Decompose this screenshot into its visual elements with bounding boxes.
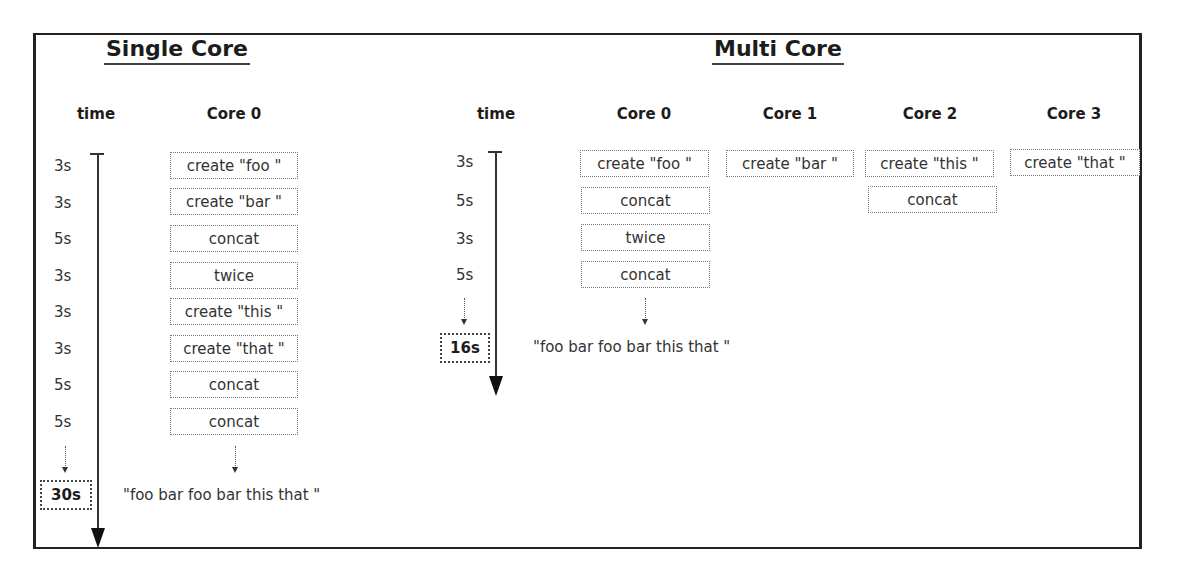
multi-total-dotted-arrow	[464, 298, 465, 320]
multi-core0-task-box: create "foo "	[580, 150, 709, 177]
single-task-box: create "bar "	[170, 188, 298, 215]
multi-time-0: 3s	[456, 153, 473, 171]
single-time-arrowhead-icon	[91, 528, 105, 548]
multi-core-title: Multi Core	[712, 36, 844, 65]
single-time-6: 5s	[54, 376, 71, 394]
single-task-box: twice	[170, 262, 298, 289]
single-time-3: 3s	[54, 267, 71, 285]
multi-core3-header: Core 3	[1047, 105, 1102, 123]
multi-core0-task-box: concat	[581, 261, 710, 288]
single-time-5: 3s	[54, 340, 71, 358]
multi-core0-task-box: concat	[581, 187, 710, 214]
single-total-time: 30s	[40, 480, 92, 510]
multi-total-arrowhead-icon	[461, 319, 467, 325]
multi-core2-header: Core 2	[903, 105, 958, 123]
multi-time-2: 3s	[456, 230, 473, 248]
multi-time-axis	[495, 151, 497, 381]
single-time-4: 3s	[54, 303, 71, 321]
single-task-box: concat	[170, 408, 298, 435]
single-time-1: 3s	[54, 194, 71, 212]
single-task-box: create "this "	[170, 298, 298, 325]
multi-result-dotted-arrow	[645, 298, 646, 320]
single-total-arrowhead-icon	[62, 467, 68, 473]
single-task-box: create "that "	[170, 335, 298, 362]
single-task-box: concat	[170, 371, 298, 398]
diagram-frame	[33, 33, 1142, 549]
multi-core2-task-box: concat	[868, 186, 997, 213]
single-time-7: 5s	[54, 413, 71, 431]
multi-core1-task-box: create "bar "	[726, 150, 854, 177]
multi-total-time: 16s	[440, 333, 490, 363]
single-total-dotted-arrow	[65, 446, 66, 468]
single-time-header: time	[77, 105, 115, 123]
multi-core2-task-box: create "this "	[865, 150, 994, 177]
single-result-dotted-arrow	[235, 446, 236, 468]
single-result-text: "foo bar foo bar this that "	[123, 486, 320, 504]
single-core0-header: Core 0	[207, 105, 262, 123]
multi-time-1: 5s	[456, 192, 473, 210]
single-time-axis	[97, 153, 99, 531]
multi-core0-header: Core 0	[617, 105, 672, 123]
single-task-box: create "foo "	[170, 152, 298, 179]
multi-result-text: "foo bar foo bar this that "	[533, 338, 730, 356]
single-task-box: concat	[170, 225, 298, 252]
multi-core3-task-box: create "that "	[1010, 149, 1140, 176]
multi-time-arrowhead-icon	[489, 376, 503, 396]
multi-core0-task-box: twice	[581, 224, 710, 251]
single-time-0: 3s	[54, 157, 71, 175]
single-result-arrowhead-icon	[232, 467, 238, 473]
multi-core1-header: Core 1	[763, 105, 818, 123]
single-time-2: 5s	[54, 230, 71, 248]
multi-time-header: time	[477, 105, 515, 123]
single-core-title: Single Core	[104, 36, 250, 65]
multi-result-arrowhead-icon	[642, 319, 648, 325]
multi-time-3: 5s	[456, 266, 473, 284]
